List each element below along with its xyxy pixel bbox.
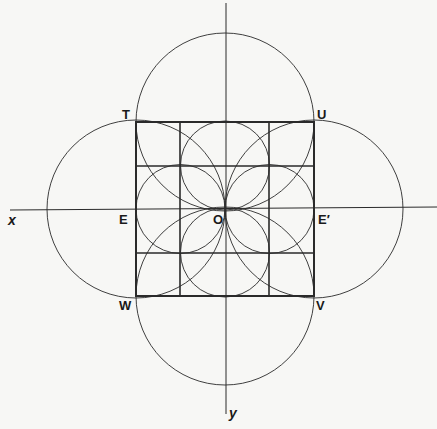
diagram-svg: T U W V E E′ O x y (0, 0, 437, 429)
label-y-axis: y (228, 405, 238, 421)
label-O: O (213, 212, 223, 227)
geometry-diagram: T U W V E E′ O x y (0, 0, 437, 429)
label-E-prime: E′ (318, 212, 330, 227)
label-U: U (317, 107, 326, 122)
label-V: V (316, 298, 325, 313)
label-E: E (119, 212, 128, 227)
label-x-axis: x (7, 212, 17, 228)
label-T: T (122, 107, 130, 122)
label-W: W (119, 298, 132, 313)
